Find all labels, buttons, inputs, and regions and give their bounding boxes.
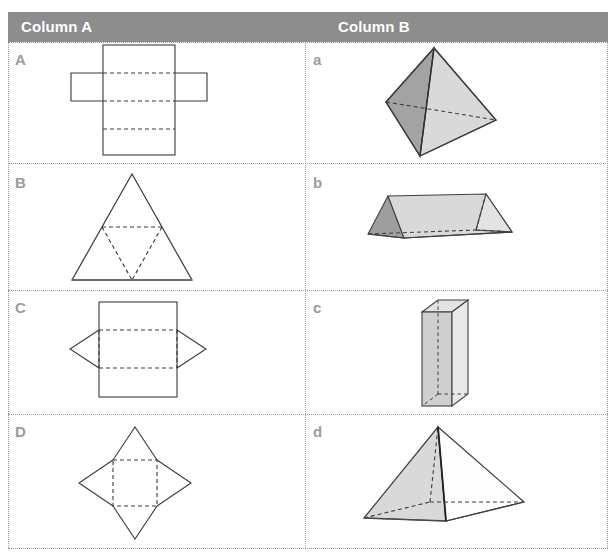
row-label-b-net: B bbox=[15, 175, 26, 190]
grid-line-column-divider bbox=[305, 42, 306, 548]
solid-tall-cuboid-figure bbox=[416, 298, 478, 410]
net-cuboid-cross-figure bbox=[68, 43, 213, 161]
row-label-c-solid: c bbox=[313, 300, 321, 315]
net-a-central-rect bbox=[103, 45, 175, 155]
column-a-header: Column A bbox=[21, 12, 92, 42]
solid-triangular-prism-figure bbox=[364, 188, 524, 248]
pyramid-face-right bbox=[438, 427, 524, 521]
net-c-central-rect bbox=[99, 302, 177, 397]
grid-line-row-1 bbox=[8, 163, 608, 164]
row-label-a-solid: a bbox=[313, 52, 321, 67]
net-a-right-flap bbox=[175, 73, 207, 101]
cuboid-face-front bbox=[422, 312, 452, 406]
net-tetrahedron-figure bbox=[70, 172, 195, 287]
row-label-a-net: A bbox=[15, 52, 26, 67]
column-b-header: Column B bbox=[338, 12, 410, 42]
net-d-flap-top bbox=[113, 427, 157, 460]
solid-octahedron-figure bbox=[378, 44, 504, 162]
net-b-fold-right bbox=[132, 227, 162, 280]
net-a-left-flap bbox=[71, 73, 103, 101]
net-b-fold-left bbox=[102, 227, 132, 280]
net-d-central-square bbox=[113, 460, 157, 506]
row-label-b-solid: b bbox=[313, 175, 322, 190]
net-d-flap-left bbox=[79, 460, 113, 506]
grid-line-row-2 bbox=[8, 290, 608, 291]
net-c-right-flap bbox=[177, 330, 206, 368]
row-label-d-solid: d bbox=[313, 424, 322, 439]
net-d-flap-right bbox=[157, 460, 191, 506]
table-header-bar: Column A Column B bbox=[8, 12, 608, 42]
cuboid-face-right bbox=[452, 300, 468, 406]
row-label-d-net: D bbox=[15, 424, 26, 439]
net-triangular-prism-figure bbox=[66, 300, 211, 400]
solid-square-pyramid-figure bbox=[356, 423, 546, 533]
grid-line-bottom bbox=[8, 548, 608, 549]
grid-line-right-edge bbox=[607, 42, 608, 548]
net-c-left-flap bbox=[70, 330, 99, 368]
net-square-pyramid-figure bbox=[73, 424, 198, 542]
row-label-c-net: C bbox=[15, 300, 26, 315]
pyramid-face-left bbox=[364, 427, 446, 521]
net-d-flap-bottom bbox=[113, 506, 157, 539]
worksheet-page: Column A Column B A a B b C c D d bbox=[0, 0, 616, 553]
grid-line-left-edge bbox=[8, 42, 9, 548]
grid-line-row-3 bbox=[8, 414, 608, 415]
